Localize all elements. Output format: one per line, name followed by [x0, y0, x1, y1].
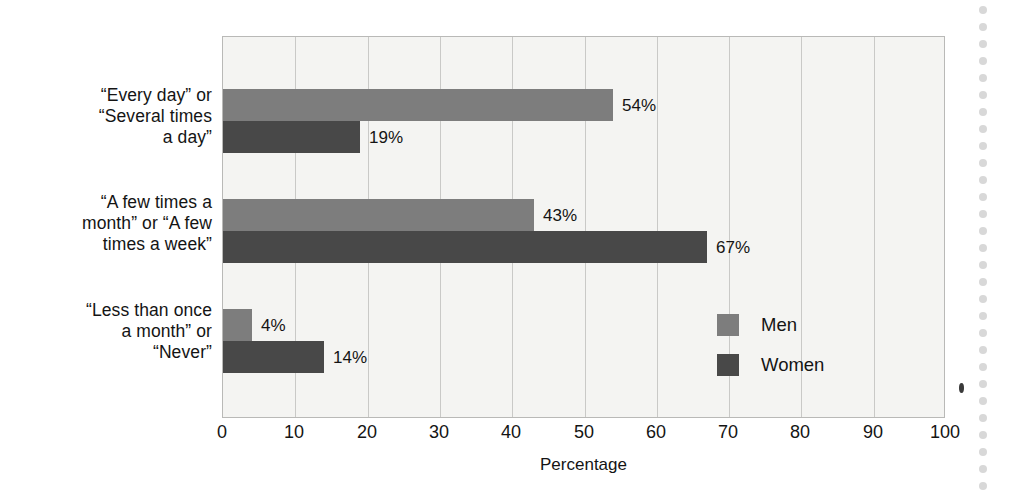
perforation-dot [979, 414, 987, 422]
perforation-dot [979, 227, 987, 235]
perforation-dot [979, 57, 987, 65]
x-tick-40: 40 [501, 422, 521, 443]
bar-women-2 [223, 341, 324, 373]
x-tick-20: 20 [357, 422, 377, 443]
legend-label-women: Women [761, 354, 824, 376]
perforation-dot [979, 448, 987, 456]
perforation-dot [979, 397, 987, 405]
x-tick-100: 100 [930, 422, 960, 443]
perforation-dot [979, 6, 987, 14]
perforation-dot [979, 125, 987, 133]
perforation-dot [979, 244, 987, 252]
bar-value-label-women-0: 19% [369, 129, 403, 146]
perforation-dot [979, 380, 987, 388]
bar-value-label-women-2: 14% [333, 349, 367, 366]
page-edge-mark [959, 383, 964, 393]
bar-women-0 [223, 121, 360, 153]
legend-label-men: Men [761, 314, 797, 336]
bar-value-label-men-1: 43% [543, 207, 577, 224]
bar-value-label-men-0: 54% [622, 97, 656, 114]
x-tick-90: 90 [863, 422, 883, 443]
page-perforation-marks [977, 0, 993, 497]
x-tick-70: 70 [718, 422, 738, 443]
perforation-dot [979, 278, 987, 286]
perforation-dot [979, 295, 987, 303]
gridline-60 [657, 37, 658, 417]
x-tick-80: 80 [790, 422, 810, 443]
x-tick-60: 60 [646, 422, 666, 443]
perforation-dot [979, 193, 987, 201]
legend-item-women: Women [717, 345, 887, 385]
chart-legend: Men Women [717, 305, 887, 385]
perforation-dot [979, 91, 987, 99]
perforation-dot [979, 465, 987, 473]
perforation-dot [979, 329, 987, 337]
perforation-dot [979, 261, 987, 269]
perforation-dot [979, 142, 987, 150]
legend-item-men: Men [717, 305, 887, 345]
bar-men-0 [223, 89, 613, 121]
plot-inner: 54%19%43%67%4%14% Men Women [223, 37, 944, 417]
x-tick-0: 0 [217, 422, 227, 443]
bar-value-label-women-1: 67% [716, 239, 750, 256]
legend-swatch-men-icon [717, 314, 739, 336]
category-label-1: “A few times a month” or “A few times a … [10, 192, 212, 255]
x-tick-30: 30 [429, 422, 449, 443]
category-label-0: “Every day” or “Several times a day” [10, 85, 212, 148]
category-label-column: “Every day” or “Several times a day” “A … [10, 36, 212, 396]
perforation-dot [979, 363, 987, 371]
perforation-dot [979, 23, 987, 31]
bar-value-label-men-2: 4% [261, 317, 286, 334]
bar-men-2 [223, 309, 252, 341]
perforation-dot [979, 74, 987, 82]
perforation-dot [979, 312, 987, 320]
x-tick-50: 50 [574, 422, 594, 443]
x-axis-tick-labels: 0102030405060708090100 [222, 422, 945, 448]
bar-chart-figure: “Every day” or “Several times a day” “A … [0, 0, 1009, 497]
category-label-2: “Less than once a month” or “Never” [10, 300, 212, 363]
perforation-dot [979, 210, 987, 218]
perforation-dot [979, 431, 987, 439]
x-axis-title: Percentage [222, 455, 945, 475]
plot-area: 54%19%43%67%4%14% Men Women [222, 36, 945, 418]
perforation-dot [979, 346, 987, 354]
bar-women-1 [223, 231, 707, 263]
legend-swatch-women-icon [717, 354, 739, 376]
perforation-dot [979, 482, 987, 490]
perforation-dot [979, 176, 987, 184]
perforation-dot [979, 108, 987, 116]
x-tick-10: 10 [284, 422, 304, 443]
perforation-dot [979, 40, 987, 48]
perforation-dot [979, 159, 987, 167]
bar-men-1 [223, 199, 534, 231]
